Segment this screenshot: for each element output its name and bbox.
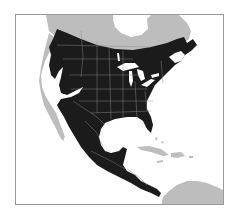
land-puerto-rico xyxy=(189,156,193,158)
range-map xyxy=(16,15,224,205)
map-frame: Range xyxy=(15,14,224,205)
